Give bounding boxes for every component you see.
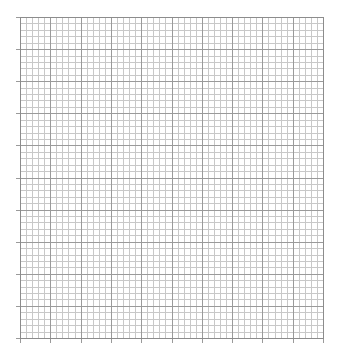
major-grid-lines: [20, 17, 324, 339]
graph-paper-grid: [0, 0, 337, 355]
minor-grid-lines: [20, 17, 323, 338]
